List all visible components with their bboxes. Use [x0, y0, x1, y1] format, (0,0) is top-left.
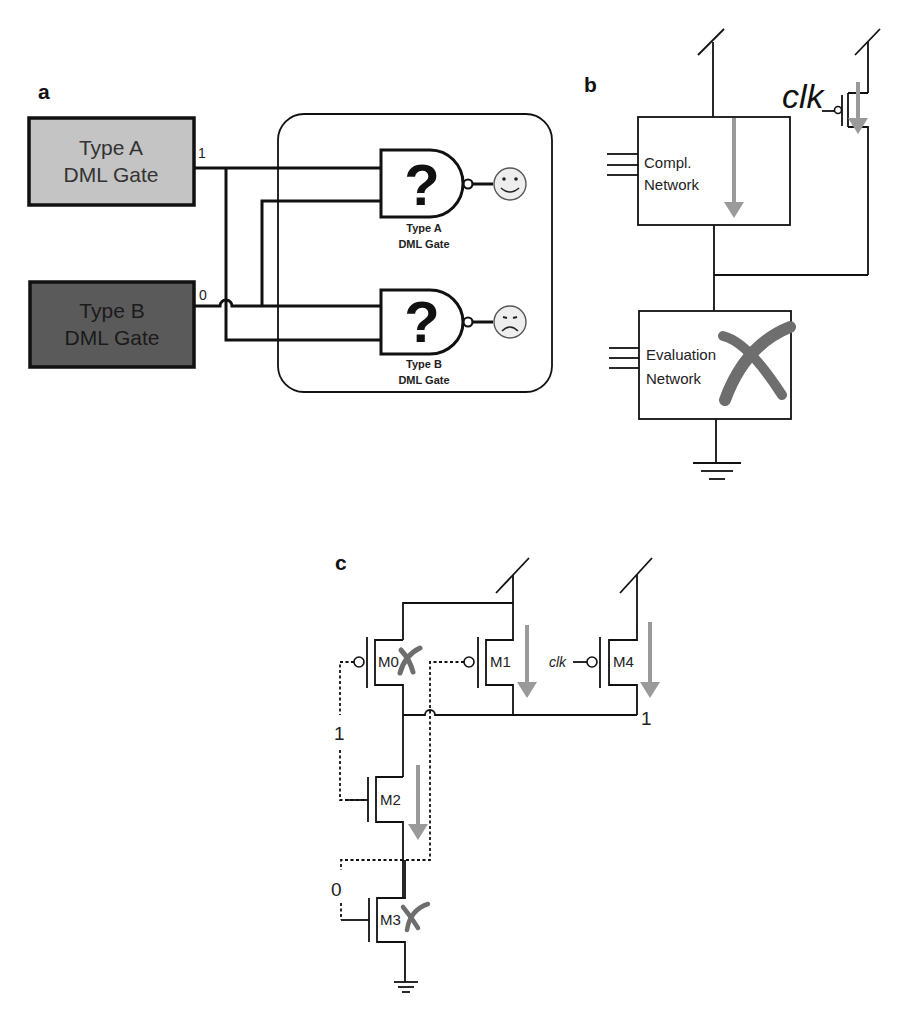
- panel-a: a Type A DML Gate 1 Type B DML Gate 0 ?: [29, 80, 552, 392]
- clk-label: clk: [782, 77, 826, 115]
- panel-a-label: a: [38, 80, 50, 103]
- type-b-output-value: 0: [199, 287, 207, 303]
- inverter-bubble: [464, 180, 473, 189]
- x-mark-icon: [400, 648, 420, 673]
- type-b-line1: Type B: [79, 299, 144, 322]
- panel-b: b clk Compl. Network: [584, 29, 880, 479]
- compl-network-line1: Compl.: [644, 154, 692, 171]
- happy-face-icon: [494, 168, 526, 200]
- type-a-output-value: 1: [198, 145, 206, 161]
- panel-c-label: c: [335, 551, 347, 574]
- eval-network-line1: Evaluation: [646, 346, 716, 363]
- clk-pmos-transistor: clk: [782, 77, 868, 275]
- m4-clk-label: clk: [549, 654, 567, 670]
- question-mark-icon: ?: [404, 152, 439, 217]
- type-b-box: [30, 282, 194, 367]
- gate-b-caption-line2: DML Gate: [398, 374, 449, 386]
- type-a-source-gate: Type A DML Gate 1: [29, 118, 206, 205]
- vdd-symbol: [698, 29, 724, 117]
- transistor-m1: M1: [464, 620, 527, 715]
- m2-label: M2: [380, 791, 401, 808]
- gate-a-caption-line1: Type A: [406, 222, 442, 234]
- complementary-network: Compl. Network: [607, 117, 790, 225]
- panel-c: c M0 M1: [331, 551, 652, 992]
- ground-symbol: [693, 419, 741, 479]
- transistor-m4: clk M4: [549, 620, 650, 715]
- compl-network-line2: Network: [644, 176, 700, 193]
- m0-label: M0: [378, 653, 399, 670]
- ground-symbol: [394, 982, 418, 992]
- vdd-symbol: [496, 558, 529, 620]
- panel-a-wires: [194, 168, 382, 340]
- eval-network-line2: Network: [646, 370, 702, 387]
- type-b-line2: DML Gate: [65, 326, 160, 349]
- gate-b-caption-line1: Type B: [406, 358, 442, 370]
- x-mark-icon: [723, 327, 790, 400]
- unknown-gate-b: ? Type B DML Gate: [381, 289, 526, 386]
- transistor-m3: M3: [341, 860, 428, 982]
- dml-figure: a Type A DML Gate 1 Type B DML Gate 0 ?: [0, 0, 917, 1021]
- m3-label: M3: [380, 911, 401, 928]
- type-a-line1: Type A: [79, 136, 143, 159]
- panel-b-label: b: [584, 73, 597, 96]
- m4-label: M4: [613, 653, 634, 670]
- inverter-bubble: [464, 318, 473, 327]
- type-b-source-gate: Type B DML Gate 0: [30, 282, 207, 367]
- type-a-line2: DML Gate: [64, 163, 159, 186]
- x-mark-icon: [403, 904, 428, 930]
- unknown-gate-a: ? Type A DML Gate: [381, 150, 526, 250]
- type-a-box: [29, 118, 194, 205]
- m1-label: M1: [490, 653, 511, 670]
- vdd-symbol: [620, 558, 652, 620]
- gate-a-caption-line2: DML Gate: [398, 238, 449, 250]
- transistor-m0: M0: [354, 637, 420, 715]
- evaluation-network: Evaluation Network: [609, 311, 791, 419]
- input-value-top: 1: [334, 723, 345, 744]
- input-value-bottom: 0: [331, 879, 342, 900]
- output-value: 1: [641, 708, 652, 729]
- question-mark-icon: ?: [404, 289, 439, 354]
- sad-face-icon: [494, 306, 526, 338]
- transistor-m2: M2: [348, 765, 418, 898]
